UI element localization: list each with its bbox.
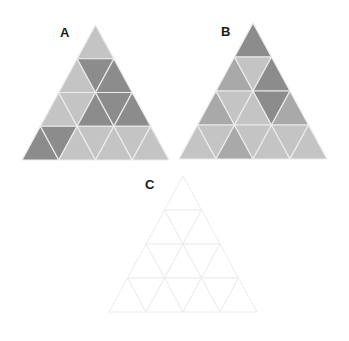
puzzle-label-a: A [60, 26, 69, 39]
cell-blank [165, 176, 202, 210]
puzzle-label-c: C [145, 178, 154, 191]
puzzle-b [179, 23, 327, 159]
puzzle-a [22, 25, 169, 160]
puzzle-canvas [0, 0, 349, 341]
cell-light [77, 25, 114, 59]
puzzle-c [109, 176, 257, 312]
puzzle-label-b: B [221, 25, 230, 38]
cell-dark [235, 23, 272, 57]
